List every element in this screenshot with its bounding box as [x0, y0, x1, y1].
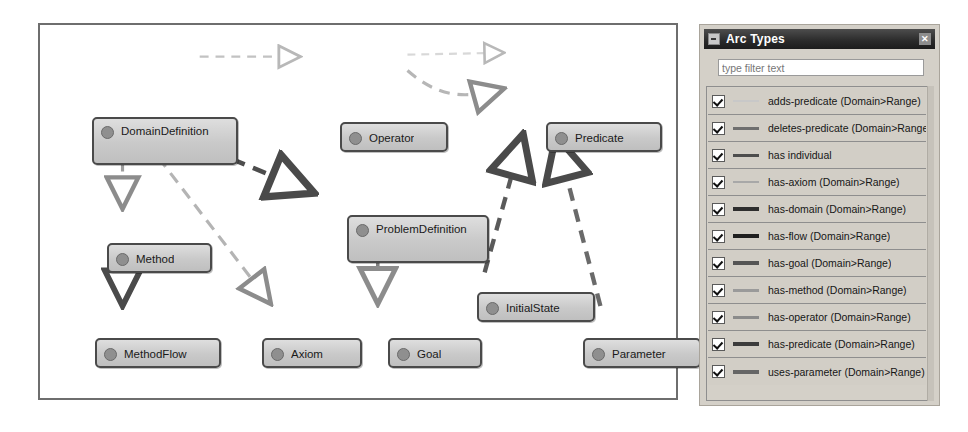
- node-bullet-icon: [356, 224, 369, 237]
- graph-node-domain-definition[interactable]: DomainDefinition: [92, 117, 238, 165]
- arc-type-row[interactable]: has-domain (Domain>Range): [708, 196, 926, 223]
- scrollbar[interactable]: [927, 86, 934, 401]
- arc-types-title: Arc Types: [726, 32, 919, 46]
- node-bullet-icon: [397, 348, 410, 361]
- checkbox-checked-icon[interactable]: [712, 365, 725, 378]
- arc-type-label: adds-predicate (Domain>Range): [768, 95, 921, 107]
- graph-node-operator[interactable]: Operator: [340, 122, 448, 152]
- arc-type-label: has-predicate (Domain>Range): [768, 338, 915, 350]
- graph-node-label: Operator: [369, 131, 414, 146]
- arc-types-titlebar[interactable]: Arc Types ✕: [704, 29, 935, 49]
- arc-type-label: has-method (Domain>Range): [768, 284, 907, 296]
- view-menu-icon[interactable]: [708, 33, 720, 45]
- node-bullet-icon: [349, 132, 362, 145]
- graph-node-axiom[interactable]: Axiom: [262, 338, 362, 368]
- arc-type-row[interactable]: has-goal (Domain>Range): [708, 250, 926, 277]
- checkbox-checked-icon[interactable]: [712, 203, 725, 216]
- graph-node-label: Method: [136, 252, 174, 267]
- edge-operator-top-connector: [407, 53, 504, 55]
- arc-color-swatch: [733, 154, 759, 157]
- arc-type-row[interactable]: uses-parameter (Domain>Range): [708, 358, 926, 385]
- graph-node-parameter[interactable]: Parameter: [583, 338, 701, 368]
- arc-color-swatch: [733, 100, 759, 102]
- arc-type-label: has-goal (Domain>Range): [768, 257, 891, 269]
- arc-type-row[interactable]: has-method (Domain>Range): [708, 277, 926, 304]
- arc-type-row[interactable]: has-flow (Domain>Range): [708, 223, 926, 250]
- graph-node-problem-definition[interactable]: ProblemDefinition: [347, 215, 489, 263]
- graph-node-label: MethodFlow: [124, 347, 187, 362]
- arc-types-list[interactable]: adds-predicate (Domain>Range)deletes-pre…: [706, 86, 928, 401]
- arc-type-label: has individual: [768, 149, 832, 161]
- checkbox-checked-icon[interactable]: [712, 230, 725, 243]
- graph-canvas[interactable]: DomainDefinition Operator Predicate Prob…: [38, 23, 678, 400]
- node-bullet-icon: [104, 348, 117, 361]
- checkbox-checked-icon[interactable]: [712, 149, 725, 162]
- node-bullet-icon: [592, 348, 605, 361]
- edge-predicate-to-initialstate: [485, 134, 524, 273]
- node-bullet-icon: [116, 253, 129, 266]
- close-icon[interactable]: ✕: [919, 33, 931, 45]
- graph-node-label: Axiom: [291, 347, 323, 362]
- arc-type-label: has-domain (Domain>Range): [768, 203, 906, 215]
- arc-type-row[interactable]: deletes-predicate (Domain>Range): [708, 115, 926, 142]
- checkbox-checked-icon[interactable]: [712, 311, 725, 324]
- arc-color-swatch: [733, 207, 759, 211]
- arc-type-label: has-axiom (Domain>Range): [768, 176, 900, 188]
- arc-type-label: has-operator (Domain>Range): [768, 311, 911, 323]
- arc-color-swatch: [733, 289, 759, 292]
- arc-type-label: deletes-predicate (Domain>Range): [768, 122, 926, 134]
- checkbox-checked-icon[interactable]: [712, 284, 725, 297]
- arc-type-row[interactable]: has-operator (Domain>Range): [708, 304, 926, 331]
- arc-color-swatch: [733, 181, 759, 183]
- checkbox-checked-icon[interactable]: [712, 95, 725, 108]
- arc-type-row[interactable]: adds-predicate (Domain>Range): [708, 88, 926, 115]
- graph-node-predicate[interactable]: Predicate: [546, 122, 662, 152]
- arc-type-row[interactable]: has-predicate (Domain>Range): [708, 331, 926, 358]
- arc-color-swatch: [733, 370, 759, 374]
- checkbox-checked-icon[interactable]: [712, 122, 725, 135]
- arc-color-swatch: [733, 127, 759, 130]
- graph-node-label: InitialState: [506, 301, 560, 316]
- node-bullet-icon: [271, 348, 284, 361]
- graph-node-label: Goal: [417, 347, 441, 362]
- arc-type-row[interactable]: has-axiom (Domain>Range): [708, 169, 926, 196]
- graph-node-label: Parameter: [612, 347, 666, 362]
- edge-predicate-to-parameter: [556, 136, 601, 306]
- checkbox-checked-icon[interactable]: [712, 257, 725, 270]
- node-bullet-icon: [555, 132, 568, 145]
- checkbox-checked-icon[interactable]: [712, 176, 725, 189]
- graph-node-method-flow[interactable]: MethodFlow: [95, 338, 221, 368]
- arc-color-swatch: [733, 261, 759, 265]
- graph-node-label: DomainDefinition: [121, 124, 209, 139]
- checkbox-checked-icon[interactable]: [712, 338, 725, 351]
- node-bullet-icon: [101, 126, 114, 139]
- arc-type-label: uses-parameter (Domain>Range): [768, 366, 925, 378]
- arc-type-label: has-flow (Domain>Range): [768, 230, 890, 242]
- graph-node-label: ProblemDefinition: [376, 222, 467, 237]
- graph-node-initial-state[interactable]: InitialState: [477, 292, 595, 322]
- graph-node-method[interactable]: Method: [107, 243, 212, 273]
- arc-color-swatch: [733, 234, 759, 238]
- edge-operator-to-predicate: [407, 71, 504, 95]
- edge-domain-to-axiom: [146, 142, 271, 304]
- arc-color-swatch: [733, 316, 759, 319]
- arc-types-view: Arc Types ✕ adds-predicate (Domain>Range…: [699, 24, 940, 406]
- graph-node-label: Predicate: [575, 131, 624, 146]
- filter-input[interactable]: [718, 59, 924, 76]
- arc-type-row[interactable]: has individual: [708, 142, 926, 169]
- node-bullet-icon: [486, 302, 499, 315]
- arc-color-swatch: [733, 342, 759, 346]
- graph-node-goal[interactable]: Goal: [388, 338, 482, 368]
